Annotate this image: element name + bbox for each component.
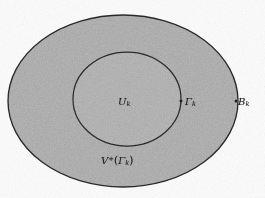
gamma-k-point-marker xyxy=(180,100,183,103)
label-v-plus-gamma-k: V+(Γk) xyxy=(101,155,133,167)
label-u-k-base: U xyxy=(118,96,127,107)
label-b-k-subscript: k xyxy=(245,100,249,108)
label-gamma-k: Γk xyxy=(185,97,196,108)
label-v-close-paren: ) xyxy=(129,154,133,166)
label-gamma-k-base: Γ xyxy=(185,96,192,107)
math-figure: Uk Γk Bk V+(Γk) xyxy=(0,0,265,198)
label-b-k: Bk xyxy=(238,97,249,108)
label-u-k-subscript: k xyxy=(127,100,131,108)
label-gamma-k-subscript: k xyxy=(192,100,196,108)
label-u-k: Uk xyxy=(118,97,131,108)
figure-canvas xyxy=(0,0,265,198)
